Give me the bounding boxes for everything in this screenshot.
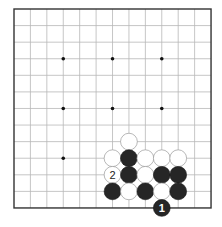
white-stone	[153, 150, 170, 167]
black-stone-disc	[121, 150, 138, 167]
white-stone	[137, 166, 154, 183]
star-point	[61, 107, 65, 111]
black-stone-disc	[137, 183, 154, 200]
go-board: 21	[0, 0, 222, 227]
go-board-diagram: 21	[0, 0, 222, 227]
black-stone	[104, 183, 121, 200]
white-stone-disc	[153, 150, 170, 167]
white-stone-disc	[121, 133, 138, 150]
white-stone	[104, 150, 121, 167]
star-point	[111, 107, 115, 111]
black-stone-disc	[104, 183, 121, 200]
black-stone	[121, 166, 138, 183]
black-stone	[121, 150, 138, 167]
white-stone: 2	[104, 166, 121, 183]
white-stone-disc	[137, 150, 154, 167]
black-stone: 1	[153, 200, 170, 217]
star-point	[61, 156, 65, 160]
black-stone	[170, 183, 187, 200]
white-stone-disc	[153, 183, 170, 200]
white-stone	[170, 150, 187, 167]
black-stone-disc	[170, 183, 187, 200]
white-stone-disc	[170, 150, 187, 167]
star-point	[111, 57, 115, 61]
black-stone-disc	[121, 166, 138, 183]
star-point	[160, 107, 164, 111]
white-stone-disc	[104, 150, 121, 167]
white-stone-disc	[121, 183, 138, 200]
white-stone	[121, 183, 138, 200]
black-stone-disc	[170, 166, 187, 183]
move-number-label: 1	[159, 202, 165, 214]
star-point	[160, 57, 164, 61]
white-stone-disc	[137, 166, 154, 183]
star-point	[61, 57, 65, 61]
white-stone	[121, 133, 138, 150]
black-stone-disc	[153, 166, 170, 183]
black-stone	[170, 166, 187, 183]
black-stone	[153, 166, 170, 183]
white-stone	[153, 183, 170, 200]
black-stone	[137, 183, 154, 200]
white-stone	[137, 150, 154, 167]
move-number-label: 2	[109, 169, 115, 181]
